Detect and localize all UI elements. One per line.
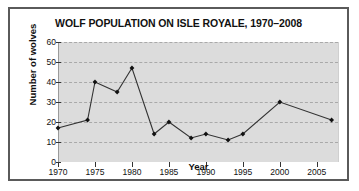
x-axis-title: Year (58, 161, 339, 172)
data-point-marker (56, 126, 61, 131)
data-point-marker (329, 118, 334, 123)
y-tick-mark (56, 142, 61, 143)
data-point-marker (130, 66, 135, 71)
y-tick-mark (56, 102, 61, 103)
y-tick-mark (56, 42, 61, 43)
y-tick-mark (56, 62, 61, 63)
data-point-marker (93, 80, 98, 85)
y-tick-label: 0 (34, 157, 56, 167)
data-point-marker (203, 132, 208, 137)
data-series-wolf-population (58, 42, 339, 162)
y-axis-title: Number of wolves (27, 5, 38, 125)
series-polyline (58, 68, 332, 140)
data-point-marker (85, 118, 90, 123)
y-tick-mark (56, 82, 61, 83)
y-tick-label: 10 (34, 137, 56, 147)
chart-figure: WOLF POPULATION ON ISLE ROYALE, 1970–200… (8, 7, 349, 181)
data-point-marker (226, 138, 231, 143)
y-tick-mark (56, 122, 61, 123)
chart-title: WOLF POPULATION ON ISLE ROYALE, 1970–200… (10, 17, 347, 29)
